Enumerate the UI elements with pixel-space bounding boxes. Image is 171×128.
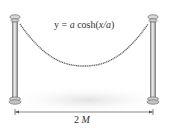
right-post — [147, 15, 159, 104]
catenary-equation: y = a cosh(x/a) — [54, 19, 114, 30]
span-label: 2 M — [74, 114, 90, 125]
hanging-rope — [20, 24, 148, 66]
catenary-figure: y = a cosh(x/a) 2 M — [0, 0, 171, 128]
left-post — [9, 15, 21, 104]
floor-shadow — [8, 86, 168, 114]
